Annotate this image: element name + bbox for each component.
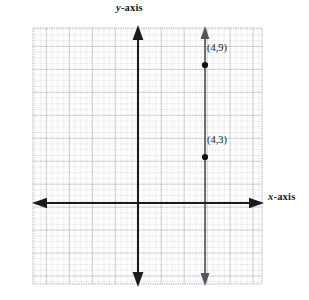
coordinate-plane-svg <box>0 0 309 300</box>
point-label-4-3: (4,3) <box>207 134 227 145</box>
y-axis-label-suffix: -axis <box>121 2 143 13</box>
major-gridlines <box>33 28 262 284</box>
x-axis-label-suffix: -axis <box>273 191 295 202</box>
point-label-4-9: (4,9) <box>207 42 227 53</box>
x-axis-label: x-axis <box>268 191 295 202</box>
coordinate-plane-figure: y-axis x-axis (4,9) (4,3) <box>0 0 309 300</box>
y-axis-label: y-axis <box>116 2 143 13</box>
data-point-1 <box>202 62 208 68</box>
data-point-2 <box>202 154 208 160</box>
